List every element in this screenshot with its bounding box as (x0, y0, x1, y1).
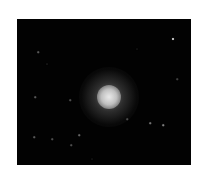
star (126, 118, 128, 120)
star (69, 99, 71, 101)
star-field-image (17, 19, 191, 165)
star (137, 49, 138, 50)
star (51, 138, 53, 140)
star (172, 38, 174, 40)
star (34, 96, 36, 98)
star (47, 64, 48, 65)
star (78, 134, 80, 136)
star (176, 78, 178, 80)
star (149, 122, 151, 124)
star (70, 144, 72, 146)
star (33, 136, 35, 138)
star (92, 159, 93, 160)
cluster-core (97, 85, 121, 109)
star (162, 124, 164, 126)
star (37, 51, 39, 53)
